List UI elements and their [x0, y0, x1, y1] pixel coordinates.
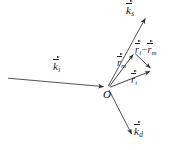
vector-accent-k-incident: k — [53, 61, 58, 72]
label-r-m: rm — [117, 58, 126, 69]
vector-line-k-diffracted — [109, 90, 132, 134]
label-r-i-minus-r-m: ri−rm — [135, 45, 156, 56]
vector-accent-diff-second: r — [147, 45, 151, 55]
vector-line-k-incident — [8, 78, 104, 86]
vector-accent-r-m: r — [117, 58, 121, 68]
minus-operator: − — [141, 44, 147, 55]
origin-label: O — [103, 89, 111, 100]
vector-accent-k-scattered: k — [126, 5, 131, 16]
vector-canvas — [0, 0, 175, 150]
label-k-incident: ki — [53, 61, 60, 74]
label-k-diffracted: kd — [134, 126, 143, 139]
vector-accent-k-diffracted: k — [134, 126, 139, 137]
vector-accent-diff-first: r — [135, 45, 139, 55]
label-r-i: ri — [131, 75, 137, 86]
vector-diagram-figure: ki ks kd rm ri ri−rm O — [0, 0, 175, 150]
label-k-scattered: ks — [126, 5, 134, 18]
vector-accent-r-i: r — [131, 75, 135, 85]
